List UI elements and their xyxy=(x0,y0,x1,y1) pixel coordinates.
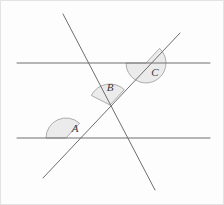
transversal-positive-slope xyxy=(43,33,180,178)
transversal-negative-slope xyxy=(63,14,155,190)
geometry-diagram: ABC xyxy=(0,0,224,205)
angle-diagram-canvas: ABC xyxy=(0,0,224,205)
angle-a-label: A xyxy=(71,122,79,134)
angle-b-label: B xyxy=(107,81,114,93)
angle-c-label: C xyxy=(151,66,159,78)
